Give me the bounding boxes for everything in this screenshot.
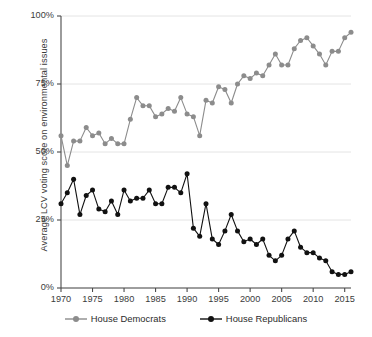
data-point — [216, 242, 221, 247]
data-point — [336, 272, 341, 277]
data-point — [260, 237, 265, 242]
data-point — [122, 188, 127, 193]
data-point — [185, 171, 190, 176]
data-point — [166, 106, 171, 111]
legend-label: House Republicans — [226, 313, 307, 324]
data-point — [279, 62, 284, 67]
data-point — [109, 136, 114, 141]
data-point — [323, 258, 328, 263]
data-point — [342, 35, 347, 40]
data-point — [273, 52, 278, 57]
data-point — [323, 62, 328, 67]
data-point — [96, 130, 101, 135]
data-point — [248, 237, 253, 242]
data-point — [311, 43, 316, 48]
legend-item[interactable]: House Democrats — [65, 313, 166, 324]
data-point — [235, 82, 240, 87]
data-point — [267, 62, 272, 67]
chart-legend: House DemocratsHouse Republicans — [0, 313, 372, 324]
data-point — [103, 141, 108, 146]
data-point — [241, 73, 246, 78]
x-tick-label: 2005 — [271, 294, 291, 304]
data-point — [153, 201, 158, 206]
tick-marks — [57, 16, 345, 292]
gridlines — [61, 16, 351, 288]
legend-item[interactable]: House Republicans — [200, 313, 307, 324]
data-point — [292, 228, 297, 233]
data-point — [222, 87, 227, 92]
x-tick-label: 2015 — [334, 294, 354, 304]
data-point — [166, 185, 171, 190]
chart-container: Average LCV voting score on environmenta… — [0, 0, 372, 337]
y-tick-label: 100% — [31, 10, 55, 20]
data-point — [140, 196, 145, 201]
data-point — [59, 201, 64, 206]
data-point — [65, 190, 70, 195]
data-point — [191, 114, 196, 119]
series-house-democrats — [59, 30, 354, 168]
data-point — [71, 139, 76, 144]
legend-label: House Democrats — [91, 313, 166, 324]
x-tick-label: 1995 — [208, 294, 228, 304]
data-point — [229, 101, 234, 106]
data-point — [96, 207, 101, 212]
data-point — [317, 256, 322, 261]
data-point — [267, 253, 272, 258]
x-tick-label: 2000 — [240, 294, 260, 304]
data-point — [304, 250, 309, 255]
data-point — [330, 49, 335, 54]
data-point — [279, 253, 284, 258]
data-point — [273, 258, 278, 263]
data-point — [216, 84, 221, 89]
data-point — [197, 133, 202, 138]
data-point — [153, 114, 158, 119]
data-point — [229, 212, 234, 217]
x-tick-label: 1975 — [82, 294, 102, 304]
data-point — [210, 101, 215, 106]
data-point — [109, 198, 114, 203]
data-point — [349, 269, 354, 274]
data-point — [59, 133, 64, 138]
data-point — [84, 193, 89, 198]
data-point — [248, 76, 253, 81]
data-point — [298, 245, 303, 250]
x-tick-label: 1990 — [177, 294, 197, 304]
data-point — [147, 188, 152, 193]
data-point — [115, 141, 120, 146]
y-tick-label: 0% — [41, 282, 54, 292]
line-chart-plot — [0, 0, 372, 337]
data-point — [65, 163, 70, 168]
series-line — [61, 174, 351, 275]
data-point — [178, 95, 183, 100]
data-point — [159, 111, 164, 116]
data-point — [103, 209, 108, 214]
data-point — [178, 190, 183, 195]
data-point — [159, 201, 164, 206]
legend-marker-icon — [65, 314, 87, 324]
y-tick-label: 50% — [36, 146, 54, 156]
data-point — [84, 125, 89, 130]
data-point — [260, 73, 265, 78]
x-tick-label: 1980 — [114, 294, 134, 304]
data-point — [210, 237, 215, 242]
data-point — [172, 109, 177, 114]
data-point — [285, 62, 290, 67]
data-point — [254, 71, 259, 76]
data-point — [254, 242, 259, 247]
data-point — [241, 239, 246, 244]
legend-marker-icon — [200, 314, 222, 324]
x-tick-label: 1970 — [51, 294, 71, 304]
data-point — [330, 269, 335, 274]
data-point — [134, 95, 139, 100]
data-series-layer — [59, 30, 354, 277]
data-point — [317, 52, 322, 57]
data-point — [311, 250, 316, 255]
data-point — [204, 98, 209, 103]
data-point — [115, 212, 120, 217]
x-tick-label: 2010 — [303, 294, 323, 304]
data-point — [134, 196, 139, 201]
data-point — [191, 226, 196, 231]
data-point — [185, 111, 190, 116]
data-point — [342, 272, 347, 277]
data-point — [235, 228, 240, 233]
